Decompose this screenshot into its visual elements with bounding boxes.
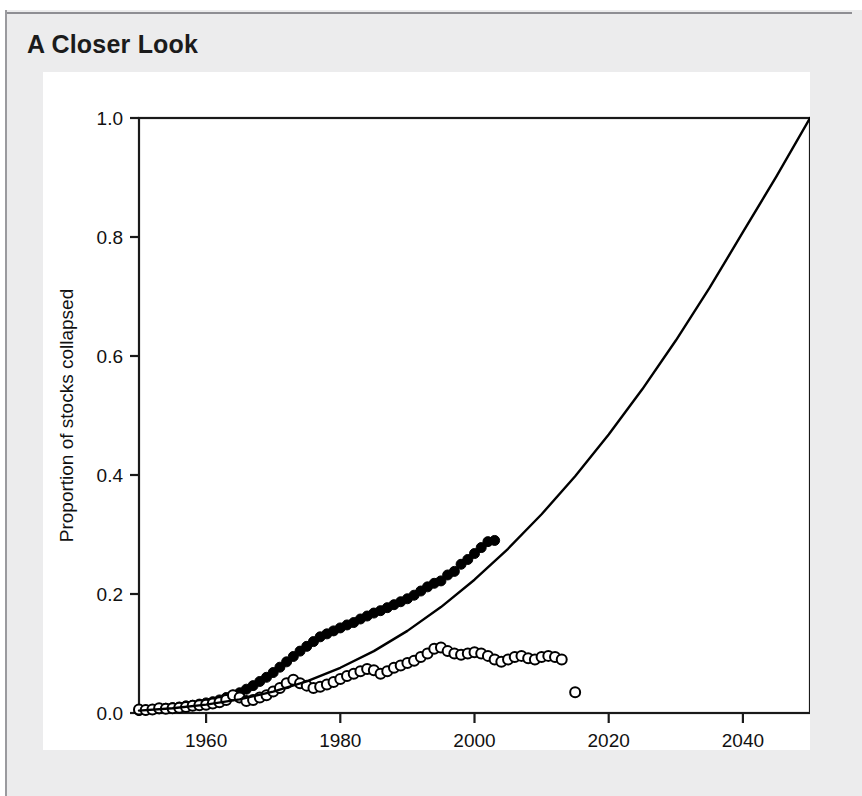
- y-axis-tick-label: 1.0: [97, 108, 123, 129]
- page-root: A Closer Look 0.00.20.40.60.81.019601980…: [0, 0, 862, 796]
- x-axis-tick-label: 1960: [185, 730, 227, 750]
- closer-look-card: A Closer Look 0.00.20.40.60.81.019601980…: [5, 10, 862, 796]
- y-axis-tick-label: 0.0: [97, 703, 123, 724]
- data-point-open: [570, 687, 580, 697]
- y-axis-title: Proportion of stocks collapsed: [56, 289, 77, 542]
- y-axis-tick-label: 0.8: [97, 227, 123, 248]
- data-point-open: [557, 654, 567, 664]
- collapse-scatter-chart: 0.00.20.40.60.81.019601980200020202040Ye…: [43, 72, 810, 750]
- data-point-filled: [490, 535, 500, 545]
- y-axis-tick-label: 0.6: [97, 346, 123, 367]
- card-left-rule: [5, 10, 7, 796]
- x-axis-tick-label: 2020: [588, 730, 630, 750]
- x-axis-tick-label: 2000: [453, 730, 495, 750]
- y-axis-tick-label: 0.4: [97, 465, 124, 486]
- x-axis-tick-label: 1980: [319, 730, 361, 750]
- x-axis-tick-label: 2040: [722, 730, 764, 750]
- header-divider: [7, 12, 852, 14]
- page-title: A Closer Look: [27, 30, 198, 59]
- chart-panel: 0.00.20.40.60.81.019601980200020202040Ye…: [43, 72, 810, 750]
- y-axis-tick-label: 0.2: [97, 584, 123, 605]
